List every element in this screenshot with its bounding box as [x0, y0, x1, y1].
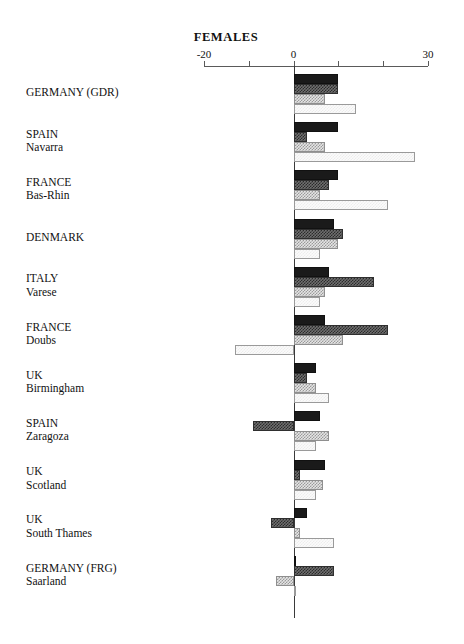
chart-title: FEMALES: [0, 30, 464, 45]
category-label: FRANCEBas-Rhin: [26, 176, 202, 203]
category-label: SPAINZaragoza: [26, 417, 202, 444]
axis-tick-mark: [204, 61, 205, 66]
bar: [294, 200, 388, 210]
bar: [294, 470, 301, 480]
bar: [294, 277, 375, 287]
bar: [294, 94, 325, 104]
category-label-line2: Varese: [26, 286, 202, 300]
bar: [294, 383, 316, 393]
bar: [294, 219, 334, 229]
bar: [271, 518, 293, 528]
bar: [294, 84, 339, 94]
category-label: ITALYVarese: [26, 272, 202, 299]
bar: [294, 373, 307, 383]
category-label-line2: Scotland: [26, 479, 202, 493]
category-label-line1: ITALY: [26, 272, 202, 286]
chart-title-text: FEMALES: [194, 30, 259, 45]
bar: [294, 229, 343, 239]
category-label-line2: Birmingham: [26, 382, 202, 396]
bar: [253, 421, 293, 431]
category-label-line2: Saarland: [26, 575, 202, 589]
chart-root: FEMALES -20 0 30 GERMANY (GDR)SPAINNavar…: [0, 0, 464, 644]
bar: [294, 411, 321, 421]
bar: [294, 393, 330, 403]
category-label-line1: DENMARK: [26, 231, 202, 245]
bar: [294, 122, 339, 132]
bar: [294, 180, 330, 190]
bar: [294, 335, 343, 345]
bar: [294, 152, 415, 162]
bar: [294, 441, 316, 451]
axis-tick-label-zero: 0: [291, 48, 297, 60]
bar: [294, 480, 323, 490]
category-label-line1: UK: [26, 513, 202, 527]
bar: [294, 508, 307, 518]
category-label: UKBirmingham: [26, 369, 202, 396]
bar: [294, 528, 301, 538]
category-label: FRANCEDoubs: [26, 321, 202, 348]
bar: [294, 297, 321, 307]
bar: [294, 566, 334, 576]
category-label-line2: Bas-Rhin: [26, 189, 202, 203]
bar: [276, 576, 294, 586]
category-label-line1: FRANCE: [26, 321, 202, 335]
category-label-line1: GERMANY (GDR): [26, 86, 202, 100]
bar: [294, 170, 339, 180]
bar: [294, 490, 316, 500]
category-label: UKSouth Thames: [26, 513, 202, 540]
axis-tick-mark: [338, 61, 339, 66]
bar: [294, 556, 296, 566]
axis-tick-mark: [428, 61, 429, 66]
category-label: GERMANY (GDR): [26, 86, 202, 100]
bar: [294, 431, 330, 441]
category-label-line2: Doubs: [26, 334, 202, 348]
bar: [294, 586, 296, 596]
category-label-line1: SPAIN: [26, 417, 202, 431]
axis-tick-mark: [294, 61, 295, 66]
axis-tick-mark: [249, 61, 250, 66]
bar: [294, 315, 325, 325]
bar: [294, 287, 325, 297]
bar: [294, 190, 321, 200]
bar: [235, 345, 293, 355]
category-label: SPAINNavarra: [26, 128, 202, 155]
axis-tick-mark: [383, 61, 384, 66]
category-label-line2: Navarra: [26, 141, 202, 155]
bar: [294, 460, 325, 470]
axis-tick-label-max: 30: [423, 48, 434, 60]
category-label-line2: South Thames: [26, 527, 202, 541]
category-label-line1: UK: [26, 369, 202, 383]
axis-line: [204, 66, 428, 67]
category-label-line1: UK: [26, 465, 202, 479]
bar: [294, 363, 316, 373]
bar: [294, 104, 357, 114]
bar: [294, 74, 339, 84]
bar: [294, 538, 334, 548]
category-label-line1: GERMANY (FRG): [26, 562, 202, 576]
category-label: GERMANY (FRG)Saarland: [26, 562, 202, 589]
category-label: DENMARK: [26, 231, 202, 245]
category-label-line1: FRANCE: [26, 176, 202, 190]
bar: [294, 142, 325, 152]
category-label: UKScotland: [26, 465, 202, 492]
bar: [294, 267, 330, 277]
bar: [294, 239, 339, 249]
bar: [294, 325, 388, 335]
axis-tick-label-min: -20: [197, 48, 212, 60]
bar: [294, 132, 307, 142]
bar: [294, 249, 321, 259]
category-label-line2: Zaragoza: [26, 430, 202, 444]
category-label-line1: SPAIN: [26, 128, 202, 142]
